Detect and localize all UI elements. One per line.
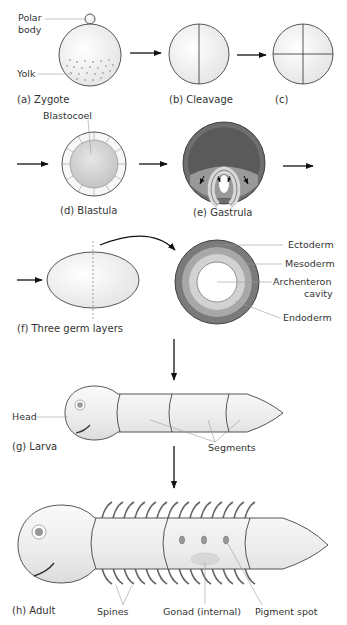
label-polar-body-1: Polar <box>18 12 42 23</box>
polar-body <box>85 14 95 24</box>
development-diagram: Polar body Yolk (a) Zygote (b) Cleavage … <box>0 0 347 625</box>
caption-h: (h) Adult <box>12 605 55 616</box>
larva-body <box>65 386 283 440</box>
label-ectoderm: Ectoderm <box>288 239 334 250</box>
embryo-side-view <box>47 252 139 308</box>
pigment-spot-1 <box>179 536 184 544</box>
caption-e: (e) Gastrula <box>193 207 253 218</box>
stage-d-blastula: Blastocoel (d) Blastula <box>43 110 126 216</box>
stage-a-zygote: Polar body Yolk (a) Zygote <box>16 12 121 105</box>
stage-g-larva: Head Segments (g) Larva <box>12 386 283 453</box>
zygote-cell <box>59 24 121 86</box>
adult-body <box>18 505 328 583</box>
label-pigment-spot: Pigment spot <box>255 606 318 617</box>
caption-g: (g) Larva <box>12 441 57 452</box>
blastocoel <box>70 140 118 188</box>
stage-f-germ-layers: Ectoderm Mesoderm Archenteron cavity End… <box>17 236 335 334</box>
stage-e-gastrula: (e) Gastrula <box>183 122 265 218</box>
label-yolk: Yolk <box>16 68 36 79</box>
label-head: Head <box>12 411 37 422</box>
label-archenteron-1: Archenteron <box>273 276 331 287</box>
pigment-spot-3 <box>223 536 228 544</box>
caption-f: (f) Three germ layers <box>17 323 123 334</box>
caption-b: (b) Cleavage <box>169 94 233 105</box>
label-endoderm: Endoderm <box>283 312 332 323</box>
label-segments: Segments <box>208 442 256 453</box>
caption-a: (a) Zygote <box>17 94 69 105</box>
label-spines: Spines <box>97 606 129 617</box>
label-gonad: Gonad (internal) <box>163 606 241 617</box>
label-archenteron-2: cavity <box>304 288 333 299</box>
caption-c: (c) <box>275 94 288 105</box>
label-blastocoel: Blastocoel <box>43 110 92 121</box>
label-mesoderm: Mesoderm <box>285 258 335 269</box>
label-polar-body-2: body <box>18 24 42 35</box>
stage-h-adult: Spines Gonad (internal) Pigment spot (h)… <box>12 502 328 617</box>
caption-d: (d) Blastula <box>60 205 117 216</box>
pigment-spot-2 <box>201 536 206 544</box>
stage-c-four-cell: (c) <box>273 24 333 105</box>
stage-b-cleavage: (b) Cleavage <box>169 24 233 105</box>
